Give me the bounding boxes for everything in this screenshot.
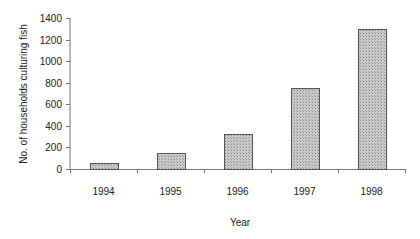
bar-1996 (225, 135, 253, 170)
x-tick-label: 1995 (159, 186, 182, 197)
x-tick-label: 1994 (92, 186, 115, 197)
x-tick-label: 1997 (293, 186, 316, 197)
y-tick-label: 0 (56, 164, 62, 175)
y-axis: 0200400600800100012001400 (40, 13, 70, 175)
y-axis-title: No. of households culturing fish (18, 24, 29, 164)
bar-1998 (359, 30, 387, 170)
y-tick-label: 1000 (40, 56, 63, 67)
bar-1997 (292, 89, 320, 170)
bar-1994 (91, 164, 119, 170)
x-axis-title: Year (230, 217, 251, 228)
y-tick-label: 800 (45, 78, 62, 89)
bars (91, 30, 387, 170)
x-axis: 19941995199619971998 (70, 169, 406, 197)
x-tick-label: 1998 (360, 186, 383, 197)
y-tick-label: 1200 (40, 35, 63, 46)
bar-chart: 0200400600800100012001400 19941995199619… (0, 0, 420, 239)
y-tick-label: 1400 (40, 13, 63, 24)
y-tick-label: 400 (45, 121, 62, 132)
bar-1995 (158, 154, 186, 170)
x-tick-label: 1996 (226, 186, 249, 197)
y-tick-label: 600 (45, 99, 62, 110)
y-tick-label: 200 (45, 142, 62, 153)
